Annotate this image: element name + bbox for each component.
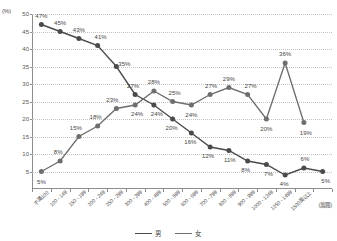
x-axis-tick-label: 150 - 199 bbox=[67, 189, 87, 208]
x-axis-labels-group: (萬圓) 不滿100100 - 149150 - 199200 - 249250… bbox=[32, 189, 332, 225]
legend-label: 女 bbox=[195, 228, 202, 238]
chart-legend: 男女 bbox=[0, 228, 337, 238]
data-point-label: 24% bbox=[185, 112, 197, 118]
x-axis-tick-label: 800 - 899 bbox=[217, 189, 237, 208]
y-axis-tick-label: 35 bbox=[22, 64, 29, 70]
x-axis-tick-label: 200 - 249 bbox=[86, 189, 106, 208]
x-axis-unit-label: (萬圓) bbox=[318, 201, 332, 209]
data-point-label: 7% bbox=[264, 171, 273, 177]
y-axis-tick-label: 5 bbox=[26, 169, 29, 175]
data-point bbox=[58, 159, 63, 164]
data-point-label: 47% bbox=[35, 13, 47, 19]
data-point-label: 5% bbox=[37, 179, 46, 185]
data-point-label: 41% bbox=[95, 34, 107, 40]
data-point-label: 8% bbox=[241, 167, 250, 173]
data-point-label: 8% bbox=[54, 149, 63, 155]
data-point bbox=[151, 89, 156, 94]
plot-area: 5045403530252015105 47%45%43%41%35%27%24… bbox=[32, 14, 332, 189]
data-point-label: 20% bbox=[260, 126, 272, 132]
data-point bbox=[151, 103, 156, 108]
data-point bbox=[208, 145, 213, 150]
data-point bbox=[58, 29, 63, 34]
x-axis-tick-label: 不滿100 bbox=[32, 189, 50, 206]
legend-label: 男 bbox=[155, 228, 162, 238]
data-point-label: 43% bbox=[73, 27, 85, 33]
data-point-label: 36% bbox=[279, 51, 291, 57]
data-point-label: 12% bbox=[202, 153, 214, 159]
legend-item-女[interactable]: 女 bbox=[175, 228, 202, 238]
data-point bbox=[95, 124, 100, 129]
x-axis-tick-label: 400 - 499 bbox=[142, 189, 162, 208]
data-point-label: 15% bbox=[70, 125, 82, 131]
data-point bbox=[133, 103, 138, 108]
x-axis-tick-label: 600 - 699 bbox=[180, 189, 200, 208]
data-point-label: 27% bbox=[127, 83, 139, 89]
series-line-男 bbox=[41, 25, 322, 176]
legend-item-男[interactable]: 男 bbox=[135, 228, 162, 238]
x-axis-tick-label: 700 - 799 bbox=[198, 189, 218, 208]
y-axis-tick-label: 10 bbox=[22, 151, 29, 157]
data-point-label: 19% bbox=[300, 130, 312, 136]
data-point bbox=[76, 134, 81, 139]
data-point bbox=[39, 169, 44, 174]
data-point-label: 20% bbox=[166, 125, 178, 131]
data-point-label: 23% bbox=[106, 97, 118, 103]
data-point-label: 5% bbox=[321, 178, 330, 184]
chart-container: (%) 5045403530252015105 47%45%43%41%35%2… bbox=[0, 0, 337, 241]
data-point bbox=[226, 85, 231, 90]
data-point-label: 27% bbox=[205, 83, 217, 89]
data-point bbox=[95, 43, 100, 48]
data-point-label: 6% bbox=[301, 156, 310, 162]
data-point bbox=[133, 92, 138, 97]
x-axis-tick-label: 500 - 599 bbox=[161, 189, 181, 208]
y-axis-tick-label: 45 bbox=[22, 29, 29, 35]
data-point-label: 29% bbox=[223, 76, 235, 82]
data-point bbox=[245, 92, 250, 97]
data-point bbox=[301, 166, 306, 171]
data-point bbox=[283, 61, 288, 66]
data-point bbox=[264, 162, 269, 167]
x-axis-tick-label: 300 - 399 bbox=[123, 189, 143, 208]
legend-swatch-icon bbox=[135, 233, 152, 234]
data-point bbox=[170, 117, 175, 122]
data-point bbox=[76, 36, 81, 41]
y-axis-unit-label: (%) bbox=[2, 8, 11, 14]
data-point-label: 11% bbox=[224, 157, 236, 163]
data-point-label: 16% bbox=[184, 139, 196, 145]
data-point bbox=[283, 173, 288, 178]
legend-swatch-icon bbox=[175, 233, 192, 234]
data-point bbox=[208, 92, 213, 97]
x-axis-tick-label: 250 - 299 bbox=[105, 189, 125, 208]
x-axis-tick-label: 100 - 149 bbox=[48, 189, 68, 208]
data-point bbox=[245, 159, 250, 164]
data-point bbox=[114, 106, 119, 111]
data-point-label: 35% bbox=[118, 61, 130, 67]
series-layer bbox=[32, 14, 332, 189]
data-point-label: 45% bbox=[54, 20, 66, 26]
x-axis-tick-mark bbox=[332, 189, 333, 192]
y-axis-tick-label: 50 bbox=[22, 11, 29, 17]
data-point-label: 25% bbox=[169, 90, 181, 96]
data-point-label: 27% bbox=[245, 83, 257, 89]
data-point bbox=[189, 131, 194, 136]
data-point bbox=[301, 120, 306, 125]
data-point bbox=[226, 148, 231, 153]
y-axis-tick-label: 40 bbox=[22, 46, 29, 52]
data-point-label: 4% bbox=[280, 181, 289, 187]
data-point bbox=[320, 169, 325, 174]
y-axis-tick-label: 20 bbox=[22, 116, 29, 122]
data-point-label: 18% bbox=[90, 114, 102, 120]
data-point-label: 28% bbox=[148, 79, 160, 85]
data-point bbox=[170, 99, 175, 104]
y-axis-tick-label: 30 bbox=[22, 81, 29, 87]
data-point-label: 24% bbox=[131, 111, 143, 117]
y-axis-tick-label: 15 bbox=[22, 134, 29, 140]
data-point bbox=[264, 117, 269, 122]
data-point bbox=[189, 103, 194, 108]
data-point bbox=[39, 22, 44, 27]
y-axis-tick-label: 25 bbox=[22, 99, 29, 105]
data-point-label: 24% bbox=[151, 111, 163, 117]
